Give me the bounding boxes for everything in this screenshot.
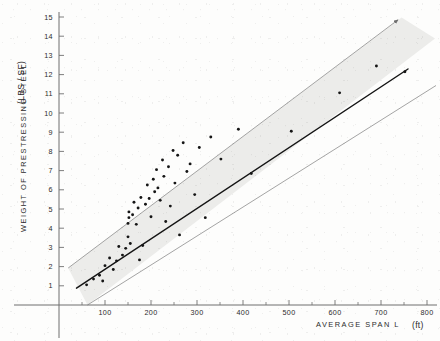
- y-tick-label: 13: [44, 51, 53, 60]
- data-point: [108, 257, 111, 260]
- data-point: [161, 159, 164, 162]
- data-point: [133, 201, 136, 204]
- data-point: [162, 175, 165, 178]
- x-tick-label: 400: [236, 308, 249, 317]
- x-tick-label: 500: [282, 308, 295, 317]
- data-point: [209, 136, 212, 139]
- y-tick-label: 9: [49, 128, 53, 137]
- data-point: [193, 193, 196, 196]
- data-point: [182, 141, 185, 144]
- data-point: [290, 130, 293, 133]
- data-point: [204, 216, 207, 219]
- x-tick-label: 300: [190, 308, 203, 317]
- data-point: [127, 216, 130, 219]
- data-point: [85, 283, 88, 286]
- data-point: [115, 259, 118, 262]
- chart-figure: 123456789101112131415 100200300400500600…: [0, 0, 440, 341]
- data-point: [117, 245, 120, 248]
- y-tick-label: 1: [49, 281, 53, 290]
- y-tick-label: 3: [49, 243, 53, 252]
- data-point: [138, 258, 141, 261]
- data-point: [152, 178, 155, 181]
- data-point: [92, 278, 95, 281]
- data-point: [144, 203, 147, 206]
- data-point: [98, 274, 101, 277]
- data-point: [131, 213, 134, 216]
- y-axis-unit: (LBS / SF): [16, 61, 26, 104]
- data-point: [141, 244, 144, 247]
- data-point: [104, 264, 107, 267]
- data-point: [185, 170, 188, 173]
- scatter-plot-svg: 123456789101112131415 100200300400500600…: [0, 0, 440, 341]
- data-point: [135, 223, 138, 226]
- data-point: [137, 207, 140, 210]
- data-point: [172, 149, 175, 152]
- data-point: [146, 184, 149, 187]
- y-tick-label: 11: [45, 89, 53, 98]
- data-point: [112, 268, 115, 271]
- data-point: [198, 146, 201, 149]
- y-tick-label: 5: [49, 205, 53, 214]
- y-tick-label: 14: [44, 32, 53, 41]
- data-point: [129, 242, 132, 245]
- y-tick-label: 15: [44, 13, 53, 22]
- y-tick-label: 2: [49, 262, 53, 271]
- y-tick-label: 7: [49, 166, 53, 175]
- data-point: [237, 128, 240, 131]
- data-point: [375, 65, 378, 68]
- x-tick-label: 700: [374, 308, 387, 317]
- data-point: [189, 162, 192, 165]
- x-tick-label: 200: [144, 308, 157, 317]
- data-point: [167, 165, 170, 168]
- x-tick-label: 600: [328, 308, 341, 317]
- data-point: [127, 222, 130, 225]
- data-point: [153, 190, 156, 193]
- data-point: [178, 233, 181, 236]
- y-tick-label: 4: [49, 224, 53, 233]
- x-tick-label: 100: [98, 308, 111, 317]
- data-point: [173, 182, 176, 185]
- data-point: [127, 235, 130, 238]
- y-tick-label: 6: [49, 185, 53, 194]
- data-point: [159, 199, 162, 202]
- data-point: [219, 158, 222, 161]
- y-tick-label: 8: [49, 147, 53, 156]
- data-point: [150, 215, 153, 218]
- data-point: [250, 172, 253, 175]
- data-point: [403, 70, 406, 73]
- data-point: [124, 247, 127, 250]
- x-tick-label: 800: [420, 308, 433, 317]
- data-point: [121, 254, 124, 257]
- y-tick-label: 10: [44, 109, 53, 118]
- data-point: [164, 220, 167, 223]
- data-point: [155, 168, 158, 171]
- data-point: [169, 205, 172, 208]
- y-tick-label: 12: [44, 70, 53, 79]
- data-point: [338, 91, 341, 94]
- data-point: [156, 186, 159, 189]
- data-point: [101, 280, 104, 283]
- data-point: [148, 197, 151, 200]
- x-axis-unit: (ft): [412, 320, 424, 330]
- data-point: [127, 210, 130, 213]
- data-point: [176, 154, 179, 157]
- x-axis-title: AVERAGE SPAN L: [316, 320, 400, 329]
- data-point: [139, 196, 142, 199]
